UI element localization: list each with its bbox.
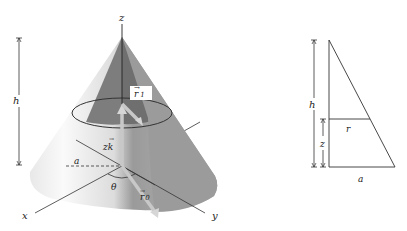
cone-cutaway-wedge [86,37,122,125]
r-label-right: r [346,124,351,134]
y-axis-label: y [211,210,218,221]
zk-arrow-accent: → [109,135,114,142]
h-label-left: h [13,95,19,106]
cone-figure: z x y h r1 → zk → a θ r0 → [13,12,218,221]
r1-arrow-accent: → [134,84,140,92]
h-label-right: h [309,99,315,110]
triangle-figure: h z r a [309,40,395,184]
r0-arrow-accent: → [140,187,145,194]
diagram-canvas: z x y h r1 → zk → a θ r0 → [0,0,407,231]
a-label-left: a [74,156,79,166]
zk-label: zk [102,142,113,152]
x-axis-label: x [22,210,28,221]
a-label-right: a [358,174,363,184]
theta-label: θ [111,182,117,192]
right-triangle [329,40,395,167]
z-label-right: z [319,139,325,149]
z-axis-label: z [118,12,125,23]
